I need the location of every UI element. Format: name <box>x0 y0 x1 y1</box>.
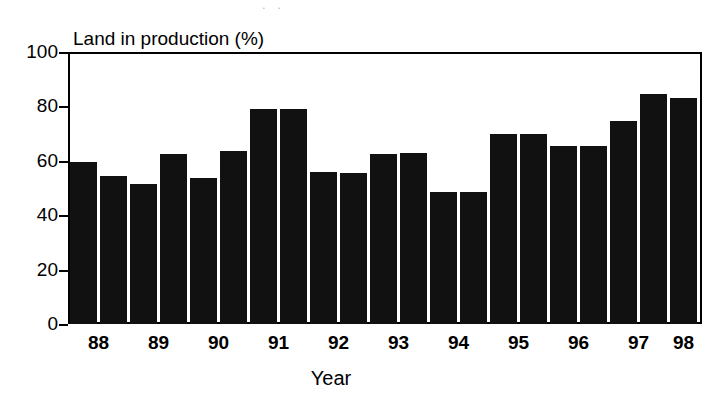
bar <box>130 184 157 324</box>
plot-area <box>68 52 702 324</box>
y-axis-tick <box>59 106 68 108</box>
bar-chart-figure: . . Land in production (%) 020406080100 … <box>0 0 726 414</box>
x-axis-tick-label: 97 <box>614 332 664 354</box>
bar <box>670 98 697 324</box>
x-axis-title-text: Year <box>311 367 351 389</box>
bar <box>430 192 457 324</box>
bar <box>640 94 667 324</box>
y-axis-tick <box>59 161 68 163</box>
bar <box>280 109 307 324</box>
y-axis-tick <box>59 324 68 326</box>
y-axis-tick-label: 0 <box>10 314 58 333</box>
x-axis-title: Year <box>0 366 726 390</box>
bar <box>100 176 127 324</box>
bar <box>400 153 427 324</box>
y-axis-title: Land in production (%) <box>73 27 264 51</box>
bar <box>160 154 187 324</box>
bar <box>460 192 487 324</box>
x-axis-tick-label: 92 <box>314 332 364 354</box>
bar <box>610 121 637 324</box>
y-axis-tick <box>59 270 68 272</box>
clipped-text-artifact: . . <box>262 0 322 9</box>
x-axis-tick-label: 88 <box>74 332 124 354</box>
bar <box>310 172 337 324</box>
bars-layer <box>68 52 702 324</box>
y-axis-tick-label: 20 <box>10 260 58 279</box>
bar <box>70 162 97 324</box>
x-axis-tick-label: 89 <box>134 332 184 354</box>
x-axis-tick-label: 98 <box>659 332 709 354</box>
bar <box>340 173 367 324</box>
y-axis-tick-label: 40 <box>10 205 58 224</box>
x-axis-tick-label: 90 <box>194 332 244 354</box>
x-axis-tick-label: 96 <box>554 332 604 354</box>
bar <box>580 146 607 324</box>
x-axis-tick-label: 95 <box>494 332 544 354</box>
bar <box>250 109 277 324</box>
y-axis-tick <box>59 52 68 54</box>
y-axis-tick <box>59 215 68 217</box>
bar <box>490 134 517 324</box>
bar <box>220 151 247 324</box>
y-axis-tick-label: 100 <box>10 42 58 61</box>
x-axis-tick-label: 94 <box>434 332 484 354</box>
bar <box>520 134 547 324</box>
y-axis-tick-label: 60 <box>10 151 58 170</box>
y-axis-tick-label: 80 <box>10 96 58 115</box>
x-axis-tick-label: 93 <box>374 332 424 354</box>
bar <box>550 146 577 324</box>
bar <box>190 178 217 324</box>
bar <box>370 154 397 324</box>
x-axis-tick-label: 91 <box>254 332 304 354</box>
